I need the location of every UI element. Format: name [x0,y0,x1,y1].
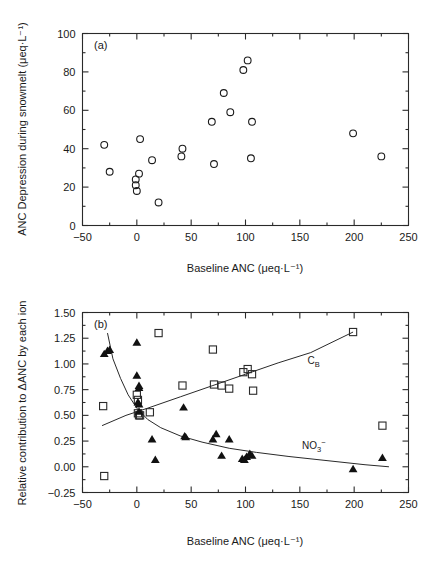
y-tick-label: −0.25 [48,487,76,499]
figure-root: −50050100150200250 020406080100 (a) Base… [0,0,441,570]
x-tick-label: 100 [236,498,254,510]
x-tick-label: 250 [399,498,417,510]
x-tick-label: 100 [236,231,254,243]
x-tick-label: 150 [291,231,309,243]
y-tick-label: 1.25 [54,332,75,344]
x-tick-label: 200 [345,231,363,243]
y-tick-label: 100 [57,28,75,40]
y-tick-label: 1.00 [54,358,75,370]
y-tick-label: 0 [69,220,75,232]
x-tick-label: 50 [185,231,197,243]
y-tick-label: 0.25 [54,435,75,447]
x-tick-label: 200 [345,498,363,510]
x-tick-label: 150 [291,498,309,510]
figure-background [0,0,441,570]
panel-b-y-axis-title: Relative contribution to ΔANC by each io… [16,301,28,506]
panel-b-label: (b) [94,318,107,330]
y-tick-label: 60 [63,104,75,116]
panel-b-x-axis-title: Baseline ANC (μeq·L⁻¹) [187,535,303,547]
x-tick-label: 0 [134,231,140,243]
y-tick-label: 0.50 [54,409,75,421]
y-tick-label: 20 [63,181,75,193]
x-tick-label: 50 [185,498,197,510]
x-tick-label: 0 [134,498,140,510]
panel-a-y-axis-title: ANC Depression during snowmelt (μeq·L⁻¹) [16,22,28,235]
panel-a-x-axis-title: Baseline ANC (μeq·L⁻¹) [187,262,303,274]
y-tick-label: 0.00 [54,461,75,473]
x-tick-label: 250 [399,231,417,243]
x-tick-label: −50 [73,231,92,243]
x-tick-label: −50 [73,498,92,510]
y-tick-label: 40 [63,143,75,155]
y-tick-label: 80 [63,66,75,78]
panel-a-label: (a) [94,39,107,51]
y-tick-label: 0.75 [54,384,75,396]
y-tick-label: 1.50 [54,307,75,319]
